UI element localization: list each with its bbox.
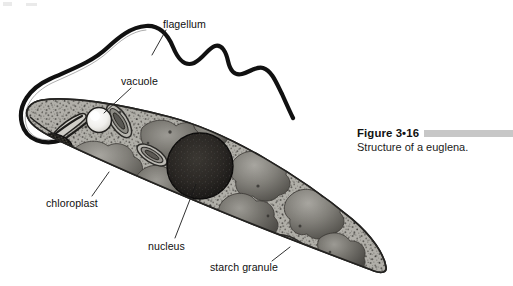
leader-chloroplast [92,172,109,196]
vacuole [87,108,112,133]
figure-caption-text: Structure of a euglena. [357,141,503,154]
label-starch-granule: starch granule [210,261,278,273]
label-nucleus: nucleus [148,240,185,252]
label-vacuole: vacuole [121,75,158,87]
label-chloroplast: chloroplast [46,197,98,209]
caption-accent-bar [424,130,513,137]
figure-number: Figure 3•16 [357,127,419,139]
nucleus [167,133,233,199]
leader-starch [272,247,290,261]
flagellum-taper-tip [282,94,293,118]
scan-artifact [26,3,37,6]
cell-body [0,90,503,286]
label-flagellum: flagellum [163,18,206,30]
leader-flagellum [152,30,166,55]
figure-caption-block: Figure 3•16 Structure of a euglena. [357,127,503,154]
scan-artifact [3,2,12,6]
figure-title-row: Figure 3•16 [357,127,503,139]
